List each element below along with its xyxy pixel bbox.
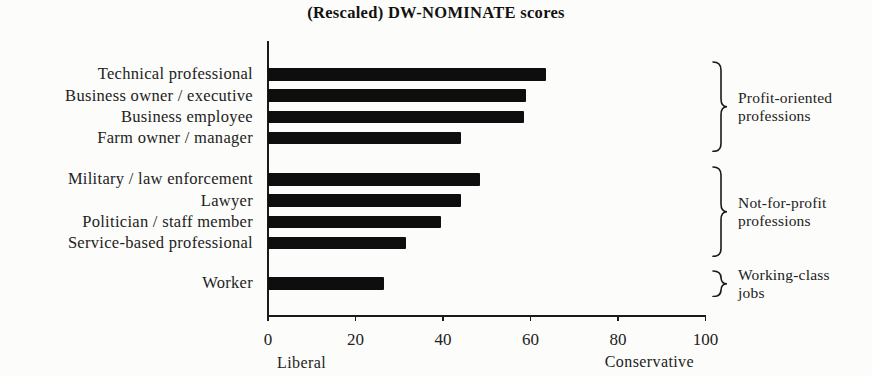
bracket-icon <box>712 270 728 298</box>
category-label-technical-professional: Technical professional <box>98 64 253 84</box>
chart-title: (Rescaled) DW-NOMINATE scores <box>0 3 872 23</box>
category-label-business-employee: Business employee <box>121 107 253 127</box>
x-axis-label-liberal: Liberal <box>277 354 326 372</box>
category-label-politician-staff-member: Politician / staff member <box>82 212 253 232</box>
group-label-not-for-profit-professions: Not-for-profit professions <box>738 194 850 230</box>
x-axis-line <box>267 315 706 317</box>
group-label-working-class-jobs: Working-class jobs <box>738 266 850 302</box>
x-tick <box>267 316 269 321</box>
bar-technical-professional <box>268 68 546 81</box>
category-label-business-owner-executive: Business owner / executive <box>65 86 253 106</box>
bar-military-law-enforcement <box>268 173 480 186</box>
category-label-lawyer: Lawyer <box>201 191 253 211</box>
x-tick-label: 20 <box>334 330 378 350</box>
bar-business-owner-executive <box>268 89 526 102</box>
x-tick-label: 0 <box>246 330 290 350</box>
x-tick-label: 100 <box>684 330 728 350</box>
x-tick <box>705 316 707 321</box>
bar-farm-owner-manager <box>268 132 461 145</box>
x-axis-label-conservative: Conservative <box>605 353 694 371</box>
category-label-military-law-enforcement: Military / law enforcement <box>68 169 253 189</box>
x-tick <box>355 316 357 321</box>
chart-figure: (Rescaled) DW-NOMINATE scores 0204060801… <box>0 0 872 376</box>
category-label-service-based-professional: Service-based professional <box>68 233 253 253</box>
bracket-icon <box>712 61 728 152</box>
category-label-worker: Worker <box>202 273 253 293</box>
bar-business-employee <box>268 111 524 124</box>
group-bracket-profit-oriented-professions <box>712 61 728 152</box>
bar-worker <box>268 277 384 290</box>
group-bracket-working-class-jobs <box>712 270 728 298</box>
x-tick <box>442 316 444 321</box>
bar-service-based-professional <box>268 237 406 250</box>
x-tick-label: 40 <box>421 330 465 350</box>
bar-lawyer <box>268 194 461 207</box>
group-label-profit-oriented-professions: Profit-oriented professions <box>738 89 850 125</box>
x-tick-label: 60 <box>509 330 553 350</box>
category-label-farm-owner-manager: Farm owner / manager <box>97 128 253 148</box>
bar-politician-staff-member <box>268 216 441 229</box>
x-tick <box>617 316 619 321</box>
x-tick <box>530 316 532 321</box>
group-bracket-not-for-profit-professions <box>712 166 728 257</box>
x-tick-label: 80 <box>596 330 640 350</box>
bracket-icon <box>712 166 728 257</box>
